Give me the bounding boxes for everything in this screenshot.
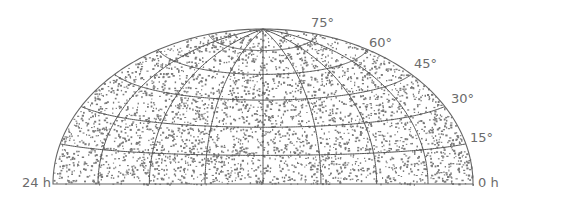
meridian-3h — [263, 29, 428, 184]
dec-label-75: 75° — [311, 16, 334, 29]
sky-map-chart — [0, 0, 573, 200]
dec-label-30: 30° — [451, 92, 474, 105]
dec-label-15: 15° — [470, 131, 493, 144]
scatter-points — [54, 29, 475, 186]
dec-label-45: 45° — [414, 57, 437, 70]
meridian-9h — [263, 29, 321, 184]
dec-label-60: 60° — [369, 36, 392, 49]
ra-label-0h: 0 h — [478, 176, 499, 189]
ra-label-24h: 24 h — [22, 176, 51, 189]
